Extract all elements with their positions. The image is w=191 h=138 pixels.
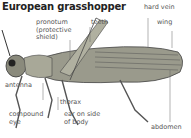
label-teeth: teeth xyxy=(91,19,108,27)
label-ear: ear on side of body xyxy=(64,111,100,126)
label-antenna: antenna xyxy=(5,82,32,90)
label-pronotum: pronotum (protective shield) xyxy=(36,19,72,42)
label-hard-vein: hard vein xyxy=(144,4,175,12)
label-wing: wing xyxy=(157,19,172,27)
label-abdomen: abdomen xyxy=(151,124,182,132)
label-thorax: thorax xyxy=(60,99,81,107)
label-compound-eye: compound eye xyxy=(9,111,43,126)
